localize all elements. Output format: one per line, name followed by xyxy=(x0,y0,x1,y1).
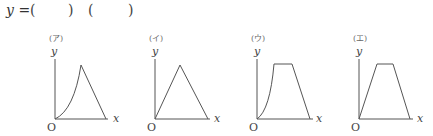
graph-u: (ウ) y O x xyxy=(249,34,323,134)
graph-e-tag: (エ) xyxy=(353,34,367,43)
graph-u-origin-label: O xyxy=(249,121,258,134)
graph-e-y-label: y xyxy=(355,45,363,58)
graph-u-curve xyxy=(257,64,310,119)
graph-e-x-label: x xyxy=(417,112,424,125)
graph-a-curve xyxy=(55,65,106,119)
graph-i-curve xyxy=(155,65,208,119)
graph-e: (エ) y O x xyxy=(351,34,424,134)
graph-u-tag: (ウ) xyxy=(251,34,265,43)
graph-a-origin-label: O xyxy=(47,121,56,134)
graph-u-x-label: x xyxy=(316,112,323,125)
graph-a-y-label: y xyxy=(50,45,58,58)
graph-a: (ア) y O x xyxy=(47,34,120,134)
graph-e-origin-label: O xyxy=(351,121,360,134)
graph-u-y-label: y xyxy=(253,45,261,58)
graph-i-origin-label: O xyxy=(147,121,156,134)
graph-a-tag: (ア) xyxy=(49,34,63,43)
graph-i-y-label: y xyxy=(151,45,159,58)
graph-i-x-label: x xyxy=(214,112,221,125)
graph-a-x-label: x xyxy=(113,112,120,125)
graph-choices: (ア) y O x (イ) y O x (ウ) y O x (エ) y O x xyxy=(0,0,433,136)
graph-i: (イ) y O x xyxy=(147,34,221,134)
graph-e-curve xyxy=(359,64,410,119)
graph-i-tag: (イ) xyxy=(149,34,163,43)
